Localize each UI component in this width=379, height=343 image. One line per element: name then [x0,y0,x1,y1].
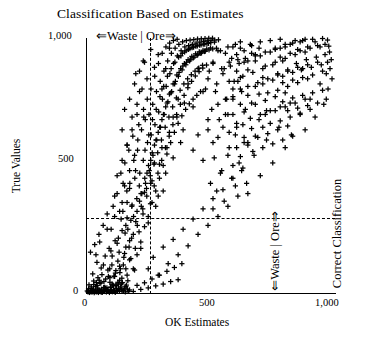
vertical-cutoff-dashed-line [150,38,151,294]
right-waste-ore-annotation: ⇐Waste | Ore⇒ [267,211,283,291]
top-waste-ore-annotation: ⇐Waste | Ore⇒ [96,28,176,44]
chart-figure: Classification Based on Estimates 1,000 … [0,0,379,343]
scatter-plot-canvas [0,0,379,343]
horizontal-cutoff-dashed-line [86,218,335,219]
correct-classification-label: Correct Classification [330,179,345,288]
